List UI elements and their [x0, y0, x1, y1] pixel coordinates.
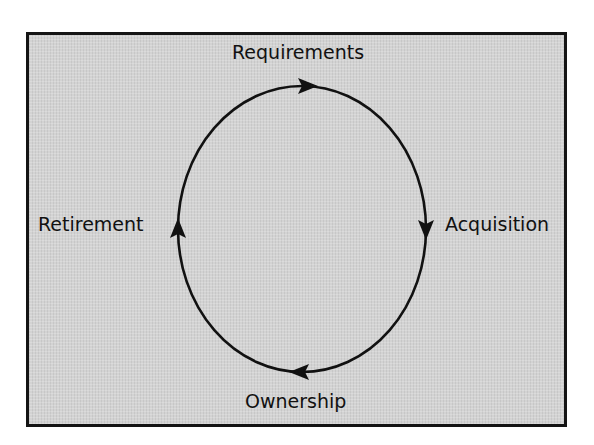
node-label-ownership: Ownership [245, 390, 346, 412]
cycle-ellipse [178, 86, 426, 372]
node-label-requirements: Requirements [232, 41, 364, 63]
node-label-acquisition: Acquisition [445, 213, 549, 235]
node-label-retirement: Retirement [38, 213, 144, 235]
